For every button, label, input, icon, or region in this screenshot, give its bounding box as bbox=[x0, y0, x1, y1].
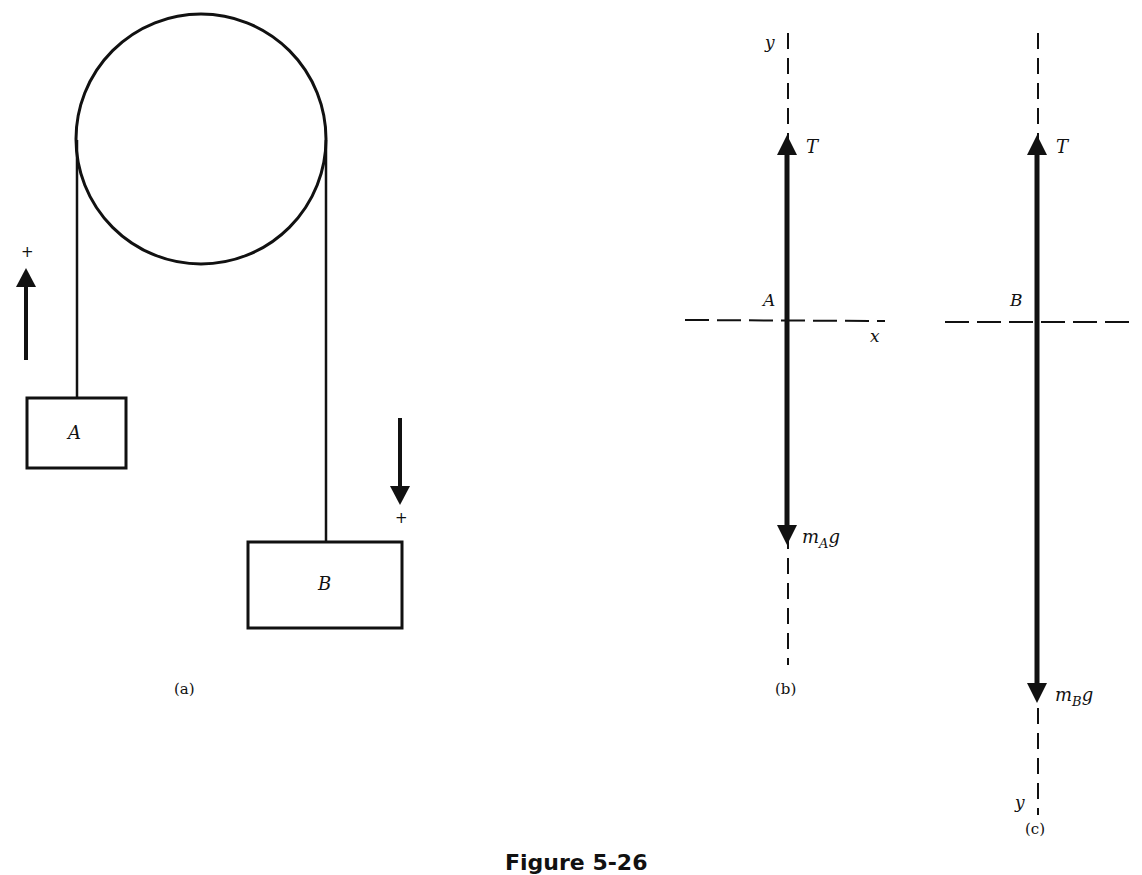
right-plus-sign: + bbox=[395, 511, 408, 526]
weight-label-b: mAg bbox=[802, 528, 840, 546]
panel-b-drawing bbox=[685, 33, 885, 665]
body-b-label: B bbox=[1010, 292, 1023, 309]
x-axis-label-b: x bbox=[870, 328, 880, 345]
panel-a-caption: (a) bbox=[174, 682, 195, 697]
weight-arrow-head-icon bbox=[777, 525, 797, 545]
figure-caption: Figure 5-26 bbox=[505, 850, 647, 875]
block-a-label: A bbox=[68, 424, 81, 442]
y-axis-label-c: y bbox=[1015, 794, 1025, 811]
positive-up-arrow-icon bbox=[16, 268, 36, 360]
panel-a-drawing bbox=[16, 14, 410, 628]
tension-label-c: T bbox=[1056, 138, 1068, 156]
y-axis-label-b: y bbox=[765, 34, 775, 51]
weight-arrow-head-icon bbox=[1027, 683, 1047, 703]
panel-c-caption: (c) bbox=[1025, 822, 1045, 837]
weight-label-c: mBg bbox=[1055, 686, 1093, 704]
left-plus-sign: + bbox=[21, 245, 34, 260]
block-b-label: B bbox=[318, 575, 331, 593]
tension-arrow-head-icon bbox=[1027, 135, 1047, 155]
panel-c-drawing bbox=[945, 33, 1130, 815]
positive-down-arrow-icon bbox=[390, 418, 410, 505]
panel-b-caption: (b) bbox=[775, 682, 796, 697]
pulley-wheel bbox=[76, 14, 326, 264]
body-a-label: A bbox=[763, 292, 775, 309]
tension-label-b: T bbox=[806, 138, 818, 156]
tension-arrow-head-icon bbox=[777, 135, 797, 155]
